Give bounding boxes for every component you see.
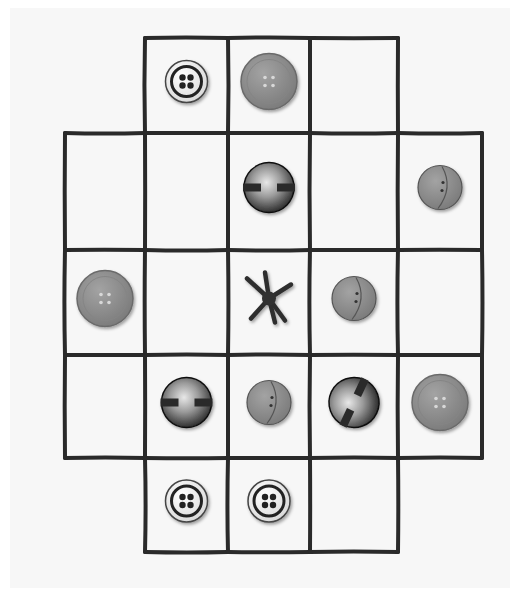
white-four-hole-button (166, 61, 208, 103)
button-hole (354, 300, 357, 303)
button-hole (263, 76, 267, 80)
gray-four-hole-button (77, 271, 133, 327)
gray-four-hole-button (412, 375, 468, 431)
button-hole (442, 397, 446, 401)
button-hole (187, 494, 193, 500)
grid-line-vertical (145, 458, 146, 552)
grid-line-vertical (397, 250, 398, 355)
grid-line-horizontal (228, 37, 310, 38)
button-hole (434, 405, 438, 409)
grid-line-horizontal (228, 250, 310, 251)
button-hole (107, 293, 111, 297)
button-hole (179, 82, 185, 88)
button-hole (179, 494, 185, 500)
button-grid-photo (0, 0, 511, 596)
button-hole (270, 502, 276, 508)
button-hole (262, 494, 268, 500)
grid-line-horizontal (310, 457, 398, 458)
button-hole (271, 84, 275, 88)
thread-star-button (247, 273, 291, 323)
grid-line-horizontal (310, 133, 398, 134)
button-hole (355, 292, 358, 295)
grid-line-vertical (227, 458, 228, 552)
button-hole (187, 502, 193, 508)
button-hole (262, 502, 268, 508)
grid-line-vertical (64, 250, 65, 355)
gray-crescent-two-hole-button (418, 166, 462, 210)
shank-bar-right (195, 399, 213, 407)
button-hole (179, 502, 185, 508)
grid-line-horizontal (398, 457, 482, 458)
button-hole (263, 84, 267, 88)
shank-bar-left (243, 184, 261, 192)
grid-line-vertical (309, 250, 310, 355)
grid-line-horizontal (145, 37, 228, 38)
button-hole (440, 189, 443, 192)
button-hole (179, 74, 185, 80)
dark-shank-bar-diagonal-button (320, 368, 387, 436)
button-hole (187, 82, 193, 88)
grid-line-horizontal (65, 133, 145, 134)
white-four-hole-button (166, 480, 208, 522)
grid-line-horizontal (228, 354, 310, 355)
grid-line-vertical (144, 38, 145, 133)
button-hole (434, 397, 438, 401)
grid-line-horizontal (398, 133, 482, 134)
button-hole (99, 301, 103, 305)
grid-line-horizontal (145, 250, 228, 251)
button-hole (269, 404, 272, 407)
white-four-hole-button (248, 480, 290, 522)
button-hole (187, 74, 193, 80)
shank-bar-left (161, 399, 179, 407)
shank-bar-right (277, 184, 295, 192)
button-hole (270, 396, 273, 399)
button-hole (99, 293, 103, 297)
gray-crescent-two-hole-button (332, 277, 376, 321)
gray-four-hole-button (241, 54, 297, 110)
dark-shank-bar-button (161, 378, 213, 428)
dark-shank-bar-button (243, 163, 295, 213)
button-hole (442, 405, 446, 409)
grid-line-horizontal (65, 457, 145, 458)
button-hole (271, 76, 275, 80)
pieces-layer (77, 54, 468, 523)
button-hole (270, 494, 276, 500)
button-hole (107, 301, 111, 305)
thread-knot (262, 292, 276, 306)
button-hole (441, 181, 444, 184)
gray-crescent-two-hole-button (247, 381, 291, 425)
